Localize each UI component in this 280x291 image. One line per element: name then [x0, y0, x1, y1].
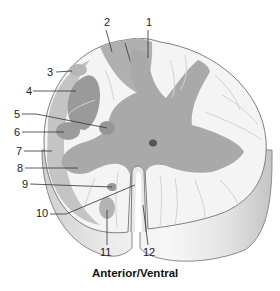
label-6: 6: [14, 126, 20, 138]
label-7: 7: [16, 145, 22, 157]
label-2: 2: [104, 16, 110, 28]
label-10: 10: [36, 207, 48, 219]
spinal-cord-diagram: 1 2 3 4 5 6 7 8 9 10 11 12 Anterior/Vent…: [0, 0, 280, 291]
nucleus-3: [69, 64, 87, 76]
fissure-inner: [135, 172, 142, 233]
label-8: 8: [17, 162, 23, 174]
label-12: 12: [143, 246, 155, 258]
label-4: 4: [26, 85, 32, 97]
label-3: 3: [47, 66, 53, 78]
label-1: 1: [146, 16, 152, 28]
label-9: 9: [22, 178, 28, 190]
orientation-caption: Anterior/Ventral: [92, 267, 178, 279]
label-5: 5: [14, 108, 20, 120]
tract-6: [56, 122, 80, 140]
label-11: 11: [100, 246, 111, 258]
central-canal: [149, 140, 157, 147]
